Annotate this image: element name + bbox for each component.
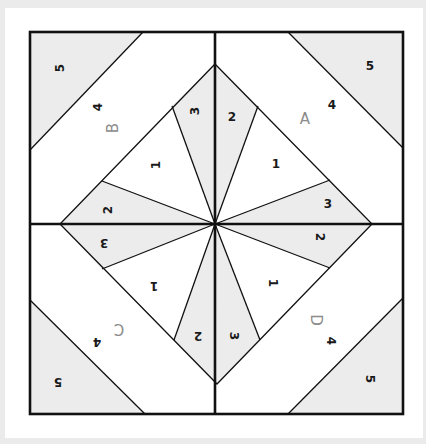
- section-d-piece-4-label: 4: [324, 337, 338, 345]
- section-c-piece-3: [60, 224, 215, 269]
- section-d-piece-3: [215, 224, 260, 384]
- section-a-label: A: [300, 110, 311, 128]
- section-a-piece-3: [215, 180, 372, 224]
- quilt-block-diagram: A 1 2 3 4 5 B 1 2 3 4 5 C 1 2 3 4 5 D 1 …: [0, 0, 426, 444]
- section-b-piece-3-label: 3: [188, 107, 202, 115]
- section-d-piece-1-label: 1: [266, 279, 280, 287]
- section-c-piece-2: [174, 224, 217, 384]
- section-c-piece-1-label: 1: [150, 279, 158, 293]
- section-b-piece-3: [172, 64, 215, 224]
- section-a-piece-4-label: 4: [328, 98, 336, 112]
- section-c-piece-5-label: 5: [54, 375, 62, 389]
- section-b-piece-2-label: 2: [101, 206, 115, 214]
- section-d-label: D: [307, 314, 325, 326]
- section-b-label: B: [104, 123, 122, 133]
- section-c-piece-2-label: 2: [194, 329, 202, 343]
- section-a-piece-1-label: 1: [272, 157, 280, 171]
- section-b-piece-4-label: 4: [91, 103, 105, 111]
- section-a-piece-2-label: 2: [228, 110, 236, 124]
- section-b-piece-2: [60, 181, 215, 224]
- section-d-piece-2-label: 2: [313, 233, 327, 241]
- section-b-piece-1-label: 1: [149, 161, 163, 169]
- section-a-piece-3-label: 3: [324, 197, 332, 211]
- section-b-piece-5-label: 5: [53, 64, 67, 72]
- section-d-piece-5-label: 5: [363, 375, 377, 383]
- section-d-piece-3-label: 3: [227, 332, 241, 340]
- section-d-piece-2: [215, 224, 372, 268]
- section-a-piece-2: [215, 64, 258, 224]
- section-c-piece-3-label: 3: [100, 236, 108, 250]
- section-c-piece-4-label: 4: [93, 335, 101, 349]
- section-a-piece-5-label: 5: [366, 59, 374, 73]
- section-c-label: C: [114, 320, 124, 338]
